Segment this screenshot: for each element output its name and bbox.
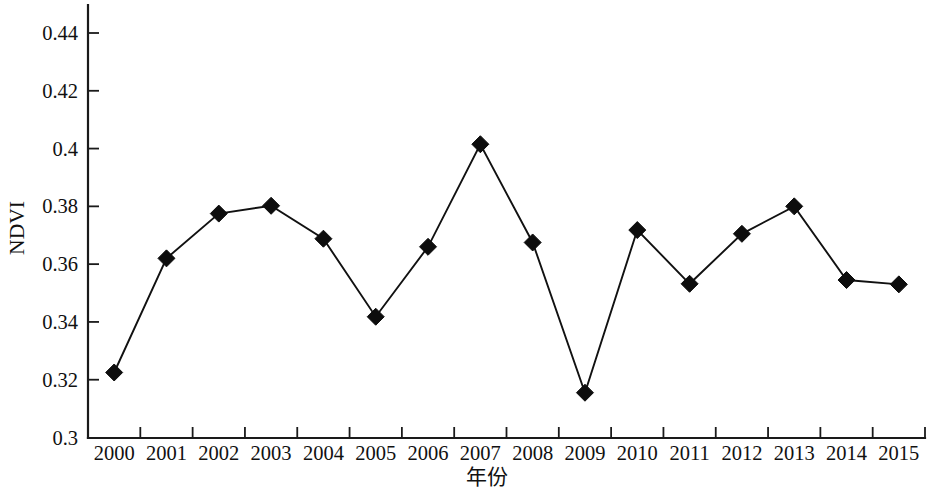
x-tick-label: 2015 (878, 442, 919, 464)
data-point-marker (838, 272, 855, 289)
data-point-marker (420, 238, 437, 255)
y-tick-label: 0.36 (42, 253, 78, 275)
y-tick-label: 0.34 (42, 311, 78, 333)
x-tick-label: 2001 (146, 442, 187, 464)
x-tick-label: 2012 (721, 442, 762, 464)
x-tick-label: 2002 (198, 442, 239, 464)
x-tick-label: 2007 (460, 442, 501, 464)
data-point-marker (472, 136, 489, 153)
x-tick-label: 2000 (94, 442, 135, 464)
y-tick-labels: 0.30.320.340.360.380.40.420.44 (42, 22, 78, 449)
x-tick-label: 2014 (826, 442, 867, 464)
data-point-marker (315, 230, 332, 247)
x-tick-label: 2003 (251, 442, 292, 464)
x-tick-label: 2008 (512, 442, 553, 464)
ndvi-series-line (114, 144, 899, 392)
ndvi-line-chart: 0.30.320.340.360.380.40.420.44 200020012… (0, 0, 929, 490)
y-axis-title: NDVI (5, 201, 29, 255)
y-tick-label: 0.42 (42, 80, 78, 102)
x-tick-label: 2006 (408, 442, 449, 464)
x-tick-label: 2011 (669, 442, 709, 464)
y-tick-label: 0.44 (42, 22, 78, 44)
y-tick-marks (88, 33, 99, 380)
y-tick-label: 0.38 (42, 195, 78, 217)
data-point-marker (367, 308, 384, 325)
x-axis-title: 年份 (466, 465, 508, 489)
data-point-marker (524, 234, 541, 251)
y-tick-label: 0.32 (42, 369, 78, 391)
data-point-marker (263, 197, 280, 214)
x-tick-label: 2013 (774, 442, 815, 464)
y-tick-label: 0.4 (52, 138, 78, 160)
x-tick-label: 2005 (355, 442, 396, 464)
x-tick-label: 2009 (564, 442, 605, 464)
chart-canvas: 0.30.320.340.360.380.40.420.44 200020012… (0, 0, 929, 490)
data-point-marker (890, 276, 907, 293)
ndvi-data-points (106, 136, 908, 401)
data-point-marker (106, 364, 123, 381)
x-tick-label: 2010 (617, 442, 658, 464)
x-tick-label: 2004 (303, 442, 344, 464)
data-point-marker (576, 384, 593, 401)
x-tick-marks (88, 427, 925, 438)
data-point-marker (786, 198, 803, 215)
x-tick-labels: 2000200120022003200420052006200720082009… (94, 442, 920, 464)
y-tick-label: 0.3 (52, 427, 78, 449)
